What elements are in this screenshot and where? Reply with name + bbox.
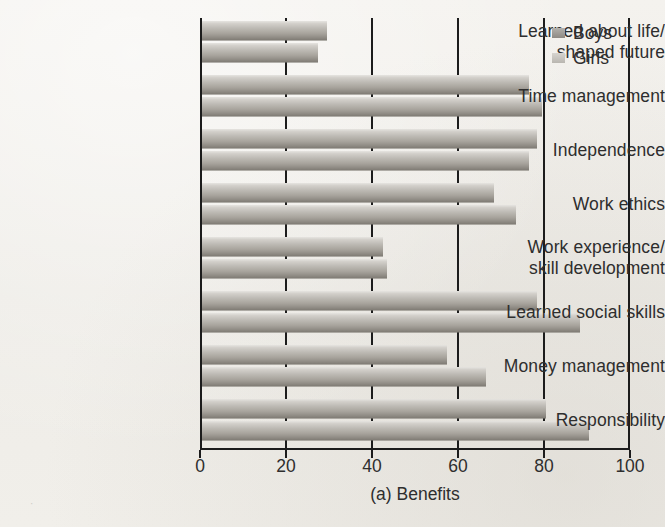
category-label: Time management (473, 86, 665, 107)
bar-boys (202, 183, 494, 202)
category-label: Work experience/skill development (473, 237, 665, 279)
x-tick-label: 40 (342, 456, 402, 477)
bar-girls (202, 367, 486, 386)
category-label: Money management (473, 356, 665, 377)
category-label: Work ethics (473, 194, 665, 215)
category-label: Responsibility (473, 410, 665, 431)
category-label-line: Responsibility (473, 410, 665, 431)
category-label-line: skill development (473, 258, 665, 279)
bar-boys (202, 345, 447, 364)
category-label: Learned social skills (473, 302, 665, 323)
bar-girls (202, 205, 516, 224)
bar-girls (202, 43, 318, 62)
category-label: Independence (473, 140, 665, 161)
bar-chart: 020406080100 Learned about life/shaped f… (0, 0, 665, 527)
category-label-line: Independence (473, 140, 665, 161)
category-label-line: Time management (473, 86, 665, 107)
category-label-line: Money management (473, 356, 665, 377)
x-axis-label: (a) Benefits (200, 484, 630, 505)
x-tick-label: 60 (428, 456, 488, 477)
bar-boys (202, 237, 383, 256)
x-tick-label: 20 (256, 456, 316, 477)
legend-label-girls: Girls (573, 48, 609, 69)
legend-entry-boys: Boys (552, 22, 628, 44)
x-tick-label: 100 (600, 456, 660, 477)
bar-boys (202, 21, 327, 40)
bar-girls (202, 259, 387, 278)
x-tick-label: 0 (170, 456, 230, 477)
legend: Boys Girls (552, 22, 628, 72)
category-label-line: Learned social skills (473, 302, 665, 323)
x-tick-label: 80 (514, 456, 574, 477)
boys-swatch-icon (552, 28, 565, 38)
legend-label-boys: Boys (573, 23, 612, 44)
scan-artifact: · (648, 238, 651, 249)
legend-entry-girls: Girls (552, 47, 628, 69)
category-label-line: Work experience/ (473, 237, 665, 258)
scan-artifact: · (30, 498, 33, 509)
category-label-line: Work ethics (473, 194, 665, 215)
girls-swatch-icon (552, 53, 565, 63)
